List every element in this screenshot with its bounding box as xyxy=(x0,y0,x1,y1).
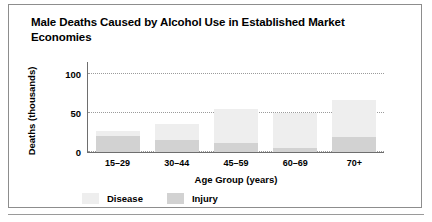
y-axis-title-text: Deaths (thousands) xyxy=(26,66,37,156)
bar-segment-injury xyxy=(214,143,258,152)
bar-segment-injury xyxy=(96,136,140,152)
x-axis-title: Age Group (years) xyxy=(88,174,384,185)
x-tick-label: 70+ xyxy=(347,158,362,168)
y-tick-label: 100 xyxy=(65,68,81,79)
y-tick-label: 0 xyxy=(76,147,81,158)
x-tick-label: 15–29 xyxy=(105,158,130,168)
legend-item: Disease xyxy=(82,193,143,204)
bar-segment-disease xyxy=(332,100,376,138)
page-title: Male Deaths Caused by Alcohol Use in Est… xyxy=(31,15,391,45)
legend-label: Injury xyxy=(192,193,218,204)
bar-group: 15–29 xyxy=(96,66,140,152)
y-axis-title: Deaths (thousands) xyxy=(26,0,40,66)
bar-segment-injury xyxy=(155,140,199,153)
legend-swatch xyxy=(167,193,184,204)
bar-segment-disease xyxy=(214,109,258,143)
bar-group: 70+ xyxy=(332,66,376,152)
legend-swatch xyxy=(82,193,99,204)
bar-group: 45–59 xyxy=(214,66,258,152)
bar-segment-disease xyxy=(155,124,199,140)
x-tick-label: 45–59 xyxy=(223,158,248,168)
figure-root: Male Deaths Caused by Alcohol Use in Est… xyxy=(0,0,432,222)
bar-segment-disease xyxy=(96,131,140,136)
x-tick-label: 60–69 xyxy=(283,158,308,168)
chart-legend: DiseaseInjury xyxy=(82,192,242,204)
bar-series-container: 15–2930–4445–5960–6970+ xyxy=(88,66,384,152)
x-axis-line xyxy=(87,152,384,153)
y-tick-label: 50 xyxy=(70,107,81,118)
bar-segment-injury xyxy=(332,137,376,152)
page-separator-rule xyxy=(8,214,424,215)
legend-item: Injury xyxy=(167,193,218,204)
bar-group: 30–44 xyxy=(155,66,199,152)
bar-segment-injury xyxy=(273,148,317,152)
legend-label: Disease xyxy=(107,193,143,204)
x-tick-label: 30–44 xyxy=(164,158,189,168)
bar-segment-disease xyxy=(273,113,317,148)
bar-group: 60–69 xyxy=(273,66,317,152)
plot-area: 050100 15–2930–4445–5960–6970+ xyxy=(88,66,384,152)
